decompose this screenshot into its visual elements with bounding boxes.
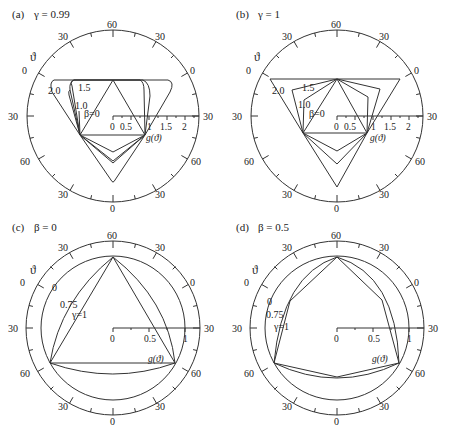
svg-text:2.0: 2.0 <box>48 85 61 96</box>
svg-text:0.5: 0.5 <box>144 334 156 344</box>
svg-text:30: 30 <box>58 242 68 253</box>
svg-text:0: 0 <box>110 334 115 344</box>
svg-text:30: 30 <box>203 111 213 122</box>
svg-text:60: 60 <box>107 19 117 30</box>
svg-text:0: 0 <box>334 122 339 132</box>
svg-text:60: 60 <box>244 368 254 379</box>
svg-text:30: 30 <box>379 242 389 253</box>
svg-text:30: 30 <box>282 31 292 42</box>
svg-text:1.0: 1.0 <box>298 99 311 110</box>
svg-text:60: 60 <box>415 156 425 167</box>
svg-text:0.5: 0.5 <box>120 122 132 132</box>
svg-text:30: 30 <box>428 323 438 334</box>
svg-text:30: 30 <box>155 189 165 200</box>
svg-text:60: 60 <box>20 368 30 379</box>
svg-text:2: 2 <box>182 122 187 132</box>
svg-text:0: 0 <box>110 203 115 214</box>
svg-text:30: 30 <box>427 111 437 122</box>
svg-text:30: 30 <box>8 111 18 122</box>
svg-text:30: 30 <box>232 323 242 334</box>
svg-text:30: 30 <box>155 401 165 412</box>
svg-text:0: 0 <box>414 65 419 76</box>
svg-text:0: 0 <box>267 296 272 307</box>
svg-text:γ=1: γ=1 <box>71 309 87 320</box>
svg-text:60: 60 <box>107 230 117 241</box>
svg-text:1.5: 1.5 <box>160 122 172 132</box>
theta-label: ϑ <box>30 263 36 277</box>
figure: (a) γ = 0.99 60 30 30 0 0 30 30 60 60 <box>0 0 450 431</box>
svg-text:30: 30 <box>155 242 165 253</box>
svg-text:0.75: 0.75 <box>266 309 284 320</box>
g-axis-label: g(ϑ) <box>372 354 388 365</box>
svg-text:1.5: 1.5 <box>384 122 396 132</box>
svg-text:30: 30 <box>282 189 292 200</box>
svg-text:1.0: 1.0 <box>75 100 88 111</box>
svg-text:0.5: 0.5 <box>368 334 380 344</box>
panel-a-label: (a) <box>12 8 25 21</box>
panel-b-title: γ = 1 <box>257 8 280 20</box>
theta-label: ϑ <box>252 263 258 277</box>
svg-text:60: 60 <box>415 368 425 379</box>
svg-text:30: 30 <box>58 401 68 412</box>
svg-text:60: 60 <box>331 230 341 241</box>
svg-text:1: 1 <box>371 122 376 132</box>
svg-text:0.5: 0.5 <box>344 122 356 132</box>
panel-b: (b) γ = 1 60 30 30 0 0 30 30 60 60 <box>232 8 437 214</box>
curve-mid <box>80 135 145 161</box>
g-axis-label: g(ϑ) <box>146 133 162 144</box>
svg-text:0: 0 <box>334 203 339 214</box>
svg-text:60: 60 <box>331 19 341 30</box>
svg-text:0: 0 <box>110 416 115 427</box>
panel-c-title: β = 0 <box>34 221 57 233</box>
curve-1-5-left <box>69 90 80 135</box>
svg-text:0: 0 <box>20 277 25 288</box>
svg-text:30: 30 <box>58 31 68 42</box>
svg-text:0: 0 <box>334 416 339 427</box>
panel-c-label: (c) <box>12 221 25 234</box>
panel-a-title: γ = 0.99 <box>33 8 70 20</box>
panel-b-label: (b) <box>236 8 249 21</box>
svg-text:30: 30 <box>379 189 389 200</box>
svg-text:0: 0 <box>334 334 339 344</box>
svg-text:2.0: 2.0 <box>272 85 285 96</box>
svg-text:30: 30 <box>232 111 242 122</box>
radial-tick-labels: 0 0.5 1 g(ϑ) <box>110 334 188 365</box>
svg-text:30: 30 <box>379 31 389 42</box>
svg-text:0: 0 <box>190 65 195 76</box>
svg-text:1.5: 1.5 <box>302 82 315 93</box>
svg-text:0: 0 <box>414 277 419 288</box>
radial-tick-labels: 0 0.5 1 g(ϑ) <box>334 334 412 365</box>
svg-text:0: 0 <box>110 122 115 132</box>
panel-d: (d) β = 0.5 60 30 30 0 0 30 30 60 60 <box>232 221 438 427</box>
svg-text:30: 30 <box>155 31 165 42</box>
theta-label: ϑ <box>254 50 260 64</box>
svg-text:30: 30 <box>8 323 18 334</box>
panel-d-label: (d) <box>236 221 249 234</box>
svg-text:60: 60 <box>244 156 254 167</box>
svg-text:γ=1: γ=1 <box>273 321 289 332</box>
svg-text:0: 0 <box>52 282 57 293</box>
svg-text:1.5: 1.5 <box>78 82 91 93</box>
svg-text:30: 30 <box>282 242 292 253</box>
curve-gamma-1 <box>50 257 175 363</box>
radial-axis <box>337 116 423 120</box>
svg-text:30: 30 <box>204 323 214 334</box>
svg-text:30: 30 <box>58 189 68 200</box>
panel-c: (c) β = 0 60 30 30 0 0 30 30 60 60 <box>8 221 214 427</box>
svg-text:0: 0 <box>246 65 251 76</box>
panel-d-title: β = 0.5 <box>258 221 290 233</box>
svg-text:0: 0 <box>190 277 195 288</box>
g-axis-label: g(ϑ) <box>370 133 386 144</box>
svg-text:60: 60 <box>20 156 30 167</box>
series-labels: 0 0.75 γ=1 <box>52 282 87 320</box>
svg-text:30: 30 <box>282 401 292 412</box>
radial-tick-labels: 0 0.5 1 1.5 2 g(ϑ) <box>110 122 187 144</box>
theta-label: ϑ <box>30 50 36 64</box>
svg-text:60: 60 <box>191 368 201 379</box>
svg-text:30: 30 <box>379 401 389 412</box>
svg-text:2: 2 <box>406 122 411 132</box>
svg-text:60: 60 <box>191 156 201 167</box>
svg-text:0: 0 <box>244 277 249 288</box>
svg-text:0: 0 <box>22 65 27 76</box>
svg-text:β=0: β=0 <box>309 108 325 119</box>
